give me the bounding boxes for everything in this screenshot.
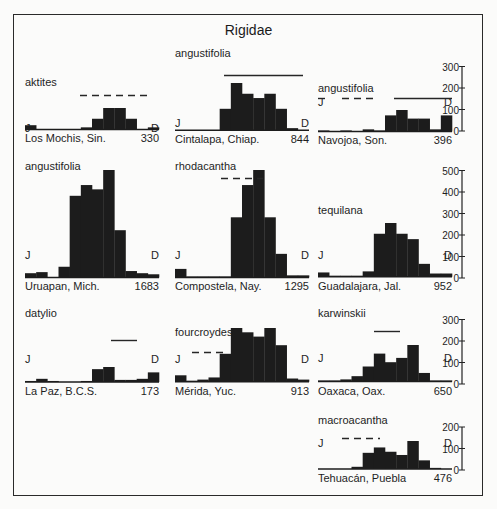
panel-fourcroydes-merida: fourcroydesJDMérida, Yuc.913 — [175, 326, 309, 400]
histogram — [25, 104, 159, 132]
month-bar — [242, 333, 253, 382]
flowering-period-bar — [25, 94, 159, 97]
location-label: La Paz, B.C.S. — [25, 385, 97, 397]
month-bar — [103, 108, 114, 130]
location-label: Uruapan, Mich. — [25, 280, 100, 292]
histogram — [175, 324, 309, 384]
month-bar — [407, 118, 418, 131]
month-bar — [103, 367, 114, 382]
species-label: angustifolia — [318, 82, 374, 94]
month-bar — [396, 455, 407, 469]
histogram — [318, 106, 452, 134]
sample-size: 1683 — [135, 280, 159, 292]
panel-rhodacantha-compostela: rhodacanthaJDCompostela, Nay.1295 — [175, 160, 309, 295]
sample-size: 650 — [434, 385, 452, 397]
panel-karwinskii-oaxaca: karwinskiiJDOaxaca, Oax.650 — [318, 307, 452, 400]
location-label: Oaxaca, Oax. — [318, 385, 385, 397]
histogram — [25, 363, 159, 384]
month-bar — [231, 217, 242, 277]
month-bar — [103, 170, 114, 278]
location-label: Los Mochis, Sin. — [25, 132, 106, 144]
flowering-period-bar — [318, 97, 452, 100]
panel-aktites-los-mochis: aktitesJDLos Mochis, Sin.330 — [25, 76, 159, 146]
month-bar — [126, 271, 137, 277]
histogram — [318, 437, 452, 471]
sample-size: 476 — [434, 472, 452, 484]
month-bar — [441, 115, 452, 131]
location-label: Mérida, Yuc. — [175, 385, 236, 397]
month-bar — [385, 363, 396, 382]
month-bar — [148, 372, 159, 382]
month-bar — [242, 185, 253, 277]
flowering-period-bar — [318, 330, 452, 333]
month-bar — [385, 115, 396, 131]
histogram — [25, 166, 159, 280]
month-bar — [264, 217, 275, 277]
panel-macroacantha-tehuacan: macroacanthaJDTehuacán, Puebla476 — [318, 414, 452, 487]
month-bar — [220, 354, 231, 382]
month-bar — [114, 230, 125, 277]
month-bar — [70, 195, 81, 277]
flowering-period-bar — [175, 351, 309, 354]
sample-size: 1295 — [285, 280, 309, 292]
month-bar — [407, 441, 418, 469]
month-bar — [220, 108, 231, 130]
axis-line — [457, 0, 469, 509]
month-bar — [264, 93, 275, 130]
month-bar — [352, 377, 363, 382]
month-bar — [253, 337, 264, 382]
month-bar — [385, 452, 396, 469]
species-label: angustifolia — [175, 47, 231, 59]
month-bar — [92, 189, 103, 277]
month-bar — [396, 358, 407, 382]
species-label: macroacantha — [318, 414, 388, 426]
sample-size: 844 — [291, 133, 309, 145]
month-bar — [419, 460, 430, 469]
month-bar — [276, 108, 287, 130]
month-bar — [92, 118, 103, 129]
month-bar — [253, 98, 264, 130]
species-label: datylio — [25, 307, 57, 319]
month-bar — [363, 367, 374, 382]
panel-angustifolia-cintalapa: angustifoliaJDCintalapa, Chiap.844 — [175, 47, 309, 146]
month-bar — [407, 345, 418, 382]
panel-angustifolia-uruapan: angustifoliaJDUruapan, Mich.1683 — [25, 160, 159, 295]
month-bar — [264, 328, 275, 382]
month-bar — [374, 234, 385, 277]
month-bar — [175, 268, 186, 277]
month-bar — [396, 234, 407, 277]
sample-size: 173 — [141, 385, 159, 397]
month-bar — [374, 354, 385, 382]
month-bar — [81, 185, 92, 277]
location-label: Cintalapa, Chiap. — [175, 133, 259, 145]
month-bar — [419, 118, 430, 131]
flowering-period-bar — [175, 177, 309, 180]
flowering-period-bar — [318, 437, 452, 440]
histogram — [175, 79, 309, 132]
histogram — [175, 166, 309, 280]
location-label: Tehuacán, Puebla — [318, 472, 406, 484]
location-label: Navojoa, Son. — [318, 134, 387, 146]
figure-title: Rigidae — [0, 22, 497, 38]
month-bar — [276, 253, 287, 277]
month-bar — [114, 108, 125, 130]
month-bar — [59, 266, 70, 277]
month-bar — [419, 373, 430, 382]
sample-size: 913 — [291, 385, 309, 397]
panel-datylio-la-paz: datylioJDLa Paz, B.C.S.173 — [25, 307, 159, 400]
panel-angustifolia-navojoa: angustifoliaJDNavojoa, Son.396 — [318, 80, 452, 146]
flowering-period-bar — [25, 339, 159, 342]
flowering-period-bar — [175, 74, 309, 77]
month-bar — [396, 110, 407, 132]
location-label: Compostela, Nay. — [175, 280, 262, 292]
species-label: aktites — [25, 76, 57, 88]
panel-tequilana-guadalajara: tequilanaJDGuadalajara, Jal.952 — [318, 204, 452, 295]
month-bar — [92, 369, 103, 382]
histogram — [318, 219, 452, 279]
month-bar — [175, 376, 186, 382]
species-label: tequilana — [318, 204, 363, 216]
month-bar — [231, 328, 242, 382]
sample-size: 952 — [434, 280, 452, 292]
location-label: Guadalajara, Jal. — [318, 280, 401, 292]
sample-size: 396 — [434, 134, 452, 146]
